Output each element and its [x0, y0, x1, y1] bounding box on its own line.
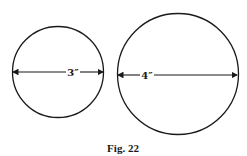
figure-caption: Fig. 22: [107, 142, 139, 154]
large-circle: [118, 14, 239, 135]
large-diameter-label: 4″: [141, 70, 153, 81]
small-circle-group: 3″: [13, 27, 104, 118]
large-circle-group: 4″: [118, 14, 239, 135]
figure-canvas: 3″ 4″ Fig. 22: [0, 0, 247, 156]
small-diameter-label: 3″: [67, 67, 79, 78]
